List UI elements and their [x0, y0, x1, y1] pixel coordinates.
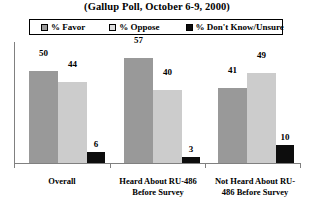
bar-dont-know: [276, 145, 294, 163]
x-axis-label-line: Heard About RU-486: [108, 176, 208, 187]
x-axis-label-line: 486 Before Survey: [205, 187, 305, 198]
bar-value-label: 50: [29, 48, 58, 58]
bar-value-label: 41: [218, 65, 247, 75]
bar-oppose: [247, 73, 276, 163]
x-axis-label-line: Overall: [14, 176, 110, 187]
bar-value-label: 49: [247, 50, 276, 60]
bar-value-label: 44: [58, 59, 87, 69]
x-axis-label-overall: Overall: [14, 176, 110, 187]
bar-value-label: 3: [182, 144, 200, 154]
x-axis-label-not-heard: Not Heard About RU- 486 Before Survey: [205, 176, 305, 198]
x-axis-tick: [300, 164, 301, 168]
x-axis-label-line: Not Heard About RU-: [205, 176, 305, 187]
x-axis-label-line: Before Survey: [108, 187, 208, 198]
x-axis-line: [14, 163, 301, 164]
plot-area: 50 44 6 57 40 3 41 49 10 Overall Heard A…: [0, 0, 314, 211]
x-axis-tick: [110, 164, 111, 168]
bar-dont-know: [87, 152, 105, 163]
y-axis-line: [14, 42, 15, 163]
bar-oppose: [153, 90, 182, 163]
bar-favor: [218, 88, 247, 163]
bar-value-label: 6: [87, 139, 105, 149]
x-axis-label-heard: Heard About RU-486 Before Survey: [108, 176, 208, 198]
x-axis-tick: [205, 164, 206, 168]
bar-value-label: 10: [276, 132, 294, 142]
bar-chart: (Gallup Poll, October 6-9, 2000) % Favor…: [0, 0, 314, 211]
bar-dont-know: [182, 157, 200, 163]
bar-value-label: 57: [124, 35, 153, 45]
x-axis-tick: [14, 164, 15, 168]
bar-oppose: [58, 82, 87, 163]
bar-favor: [124, 58, 153, 163]
bar-favor: [29, 71, 58, 163]
bar-value-label: 40: [153, 67, 182, 77]
